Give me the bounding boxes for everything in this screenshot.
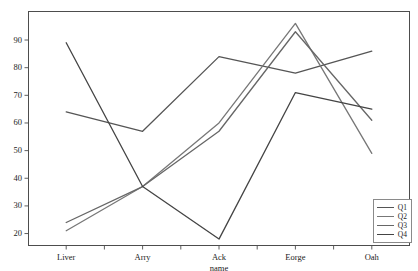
ytick-label: 30 — [2, 201, 22, 210]
xtick-label: Eorge — [265, 253, 325, 262]
xtick-label: Ack — [189, 253, 249, 262]
xtick-label: Liver — [36, 253, 96, 262]
chart-figure: 2030405060708090LiverArryAckEorgeOahname… — [0, 0, 418, 271]
ytick-label: 90 — [2, 36, 22, 45]
axis-labels-layer: 2030405060708090LiverArryAckEorgeOahname — [0, 0, 418, 271]
legend-swatch-q2-icon — [377, 216, 394, 217]
legend-item-q1[interactable]: Q1 — [377, 203, 407, 212]
ytick-label: 40 — [2, 174, 22, 183]
legend[interactable]: Q1Q2Q3Q4 — [373, 199, 412, 243]
ytick-label: 80 — [2, 63, 22, 72]
xtick-label: Oah — [342, 253, 402, 262]
legend-item-q4[interactable]: Q4 — [377, 230, 407, 239]
xtick-label: Arry — [113, 253, 173, 262]
xaxis-title: name — [189, 264, 249, 271]
legend-item-q3[interactable]: Q3 — [377, 221, 407, 230]
ytick-label: 60 — [2, 118, 22, 127]
legend-label: Q3 — [398, 222, 407, 230]
legend-label: Q2 — [398, 213, 407, 221]
legend-swatch-q3-icon — [377, 225, 394, 226]
legend-label: Q1 — [398, 204, 407, 212]
ytick-label: 50 — [2, 146, 22, 155]
ytick-label: 70 — [2, 91, 22, 100]
legend-label: Q4 — [398, 231, 407, 239]
legend-item-q2[interactable]: Q2 — [377, 212, 407, 221]
legend-swatch-q1-icon — [377, 207, 394, 208]
ytick-label: 20 — [2, 229, 22, 238]
legend-swatch-q4-icon — [377, 234, 394, 235]
